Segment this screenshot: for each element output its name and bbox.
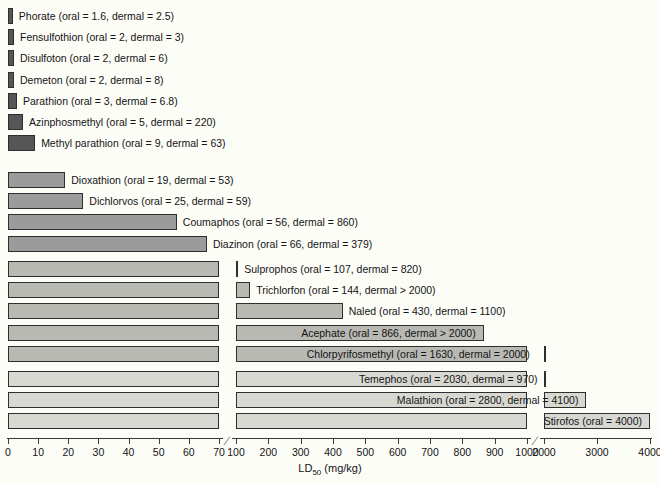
bar-label: Parathion (oral = 3, dermal = 6.8): [23, 95, 178, 107]
bar: [8, 282, 219, 298]
bar: [8, 346, 219, 362]
bar-row: Malathion (oral = 2800, dermal = 4100): [0, 392, 660, 408]
bar: [8, 214, 177, 230]
bar-label: Dichlorvos (oral = 25, dermal = 59): [89, 195, 251, 207]
axis-tick-label: 400: [324, 446, 342, 458]
bar-row: Dichlorvos (oral = 25, dermal = 59): [0, 193, 660, 209]
axis-line: [232, 438, 531, 439]
bar: [8, 93, 17, 109]
bar: [8, 114, 23, 130]
axis-tick-label: 800: [454, 446, 472, 458]
bar: [544, 371, 546, 387]
bar-label: Sulprophos (oral = 107, dermal = 820): [244, 263, 421, 275]
bar: [8, 236, 207, 252]
bar: [236, 282, 250, 298]
bar-row: Methyl parathion (oral = 9, dermal = 63): [0, 135, 660, 151]
bar: [8, 193, 83, 209]
x-axis-title-sub: 50: [312, 468, 321, 477]
bar-row: Dioxathion (oral = 19, dermal = 53): [0, 172, 660, 188]
axis-tick-label: 600: [389, 446, 407, 458]
bar-label: Demeton (oral = 2, dermal = 8): [20, 74, 164, 86]
bar-row: Azinphosmethyl (oral = 5, dermal = 220): [0, 114, 660, 130]
axis-tick-label: 60: [183, 446, 195, 458]
axis-tick-label: 100: [227, 446, 245, 458]
axis-tick: [219, 438, 220, 444]
axis-tick-label: 4000: [638, 446, 660, 458]
bar: [236, 261, 238, 277]
bar-row: Trichlorfon (oral = 144, dermal > 2000): [0, 282, 660, 298]
axis-tick: [462, 438, 463, 444]
bar-label: Fensulfothion (oral = 2, dermal = 3): [20, 31, 184, 43]
bar: [8, 303, 219, 319]
bar-row: Chlorpyrifosmethyl (oral = 1630, dermal …: [0, 346, 660, 362]
axis-tick-label: 0: [5, 446, 11, 458]
axis-tick: [268, 438, 269, 444]
x-axis: LD50 (mg/kg) 010203040506070100200300400…: [0, 438, 660, 485]
bar-label: Trichlorfon (oral = 144, dermal > 2000): [256, 284, 435, 296]
x-axis-title: LD50 (mg/kg): [0, 462, 660, 477]
axis-line: [540, 438, 652, 439]
bar-label: Phorate (oral = 1.6, dermal = 2.5): [19, 10, 174, 22]
axis-tick: [98, 438, 99, 444]
axis-tick: [68, 438, 69, 444]
bar-row: Diazinon (oral = 66, dermal = 379): [0, 236, 660, 252]
axis-tick: [236, 438, 237, 444]
bar-label: Azinphosmethyl (oral = 5, dermal = 220): [29, 116, 216, 128]
axis-line: [7, 438, 223, 439]
axis-tick: [365, 438, 366, 444]
bar-row: Temephos (oral = 2030, dermal = 970): [0, 371, 660, 387]
axis-tick-label: 40: [123, 446, 135, 458]
bar-label: Chlorpyrifosmethyl (oral = 1630, dermal …: [307, 348, 530, 360]
axis-tick: [527, 438, 528, 444]
axis-tick: [333, 438, 334, 444]
bar-row: Parathion (oral = 3, dermal = 6.8): [0, 93, 660, 109]
bar-label: Temephos (oral = 2030, dermal = 970): [359, 373, 538, 385]
axis-tick-label: 20: [62, 446, 74, 458]
axis-tick: [495, 438, 496, 444]
bar-label: Methyl parathion (oral = 9, dermal = 63): [41, 137, 225, 149]
bar: [8, 8, 13, 24]
axis-tick: [129, 438, 130, 444]
bar-label: Naled (oral = 430, dermal = 1100): [349, 305, 506, 317]
bar-label: Stirofos (oral = 4000): [544, 415, 642, 427]
bar: [236, 413, 527, 429]
axis-tick-label: 10: [32, 446, 44, 458]
bar-row: Fensulfothion (oral = 2, dermal = 3): [0, 29, 660, 45]
bar-row: Disulfoton (oral = 2, dermal = 6): [0, 50, 660, 66]
axis-tick: [430, 438, 431, 444]
bar-row: Coumaphos (oral = 56, dermal = 860): [0, 214, 660, 230]
x-axis-title-unit: (mg/kg): [321, 462, 361, 474]
bar-row: Acephate (oral = 866, dermal > 2000): [0, 325, 660, 341]
axis-tick: [544, 438, 545, 444]
axis-tick-label: 300: [292, 446, 310, 458]
bar-label: Disulfoton (oral = 2, dermal = 6): [20, 52, 168, 64]
bar: [8, 50, 14, 66]
axis-tick: [301, 438, 302, 444]
bar-label: Coumaphos (oral = 56, dermal = 860): [183, 216, 358, 228]
bar-row: Naled (oral = 430, dermal = 1100): [0, 303, 660, 319]
axis-tick: [38, 438, 39, 444]
bar: [8, 325, 219, 341]
bar: [8, 29, 14, 45]
bar: [8, 172, 65, 188]
bar-row: Phorate (oral = 1.6, dermal = 2.5): [0, 8, 660, 24]
bar-row: Sulprophos (oral = 107, dermal = 820): [0, 261, 660, 277]
axis-tick-label: 200: [260, 446, 278, 458]
bar: [8, 392, 219, 408]
bar-label: Dioxathion (oral = 19, dermal = 53): [71, 174, 233, 186]
bar: [8, 371, 219, 387]
bar-label: Diazinon (oral = 66, dermal = 379): [213, 238, 372, 250]
bar: [8, 72, 14, 88]
axis-tick: [650, 438, 651, 444]
axis-tick: [398, 438, 399, 444]
x-axis-title-main: LD: [298, 462, 312, 474]
bar: [8, 261, 219, 277]
axis-tick-label: 30: [93, 446, 105, 458]
axis-tick-label: 3000: [585, 446, 608, 458]
axis-tick-label: 700: [421, 446, 439, 458]
axis-tick-label: 2000: [532, 446, 555, 458]
bar-label: Malathion (oral = 2800, dermal = 4100): [397, 394, 579, 406]
bar-label: Acephate (oral = 866, dermal > 2000): [301, 327, 476, 339]
ld50-bar-chart: Phorate (oral = 1.6, dermal = 2.5)Fensul…: [0, 0, 660, 485]
bar: [236, 303, 343, 319]
